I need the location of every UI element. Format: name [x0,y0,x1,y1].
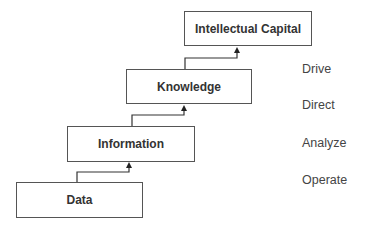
box-data-label: Data [66,193,92,207]
action-label-direct: Direct [302,99,335,112]
action-label-drive: Drive [302,63,331,76]
arrow-knowledge-to-intellectual-capital [185,49,237,69]
box-intellectual-capital: Intellectual Capital [184,11,312,46]
arrow-information-to-knowledge [132,107,184,126]
action-label-operate: Operate [302,174,347,187]
arrowhead-icon [234,47,240,53]
box-knowledge-label: Knowledge [157,80,221,94]
box-knowledge: Knowledge [126,69,252,104]
arrow-data-to-information [77,164,129,182]
box-data: Data [16,182,143,218]
arrowhead-icon [181,105,187,111]
box-information-label: Information [98,137,164,151]
box-intellectual-capital-label: Intellectual Capital [195,22,301,36]
arrowhead-icon [126,162,132,168]
action-label-analyze: Analyze [302,137,346,150]
box-information: Information [67,126,195,162]
